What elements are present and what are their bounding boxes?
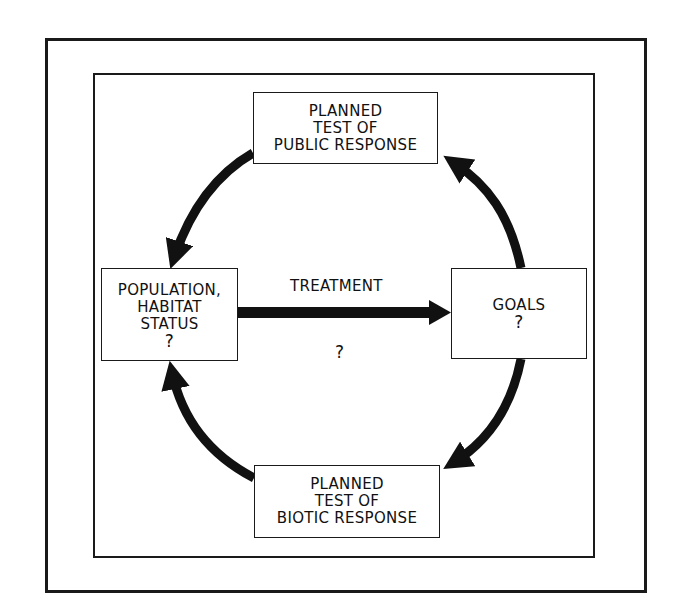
public-response-box: PLANNED TEST OF PUBLIC RESPONSE xyxy=(253,92,438,164)
box-line: PLANNED xyxy=(309,103,383,120)
box-line: BIOTIC RESPONSE xyxy=(277,510,417,527)
population-habitat-box: POPULATION, HABITAT STATUS ? xyxy=(101,268,238,361)
question-mark: ? xyxy=(165,333,174,350)
treatment-question-mark: ? xyxy=(335,342,344,362)
box-line: POPULATION, xyxy=(118,282,221,299)
box-line: TEST OF xyxy=(315,493,380,510)
box-line: TEST OF xyxy=(313,120,378,137)
biotic-response-box: PLANNED TEST OF BIOTIC RESPONSE xyxy=(254,465,440,538)
box-line: PUBLIC RESPONSE xyxy=(274,137,417,154)
treatment-label: TREATMENT xyxy=(290,277,383,295)
question-mark: ? xyxy=(514,314,523,331)
goals-box: GOALS ? xyxy=(451,268,587,359)
box-line: HABITAT xyxy=(137,299,202,316)
box-line: PLANNED xyxy=(310,476,384,493)
box-line: STATUS xyxy=(140,316,198,333)
box-line: GOALS xyxy=(493,297,546,314)
